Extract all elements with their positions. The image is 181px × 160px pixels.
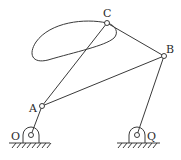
link-CB	[107, 23, 164, 56]
label-Q: Q	[147, 130, 156, 143]
label-C: C	[103, 7, 111, 20]
joint-C	[105, 21, 110, 26]
label-O: O	[11, 130, 20, 143]
joint-A	[40, 104, 45, 109]
label-A: A	[28, 102, 38, 115]
link-AB	[42, 56, 164, 106]
linkage-diagram: C B A O Q	[0, 0, 181, 160]
link-AC	[42, 23, 107, 106]
label-B: B	[166, 43, 174, 56]
link-QB	[137, 56, 164, 135]
